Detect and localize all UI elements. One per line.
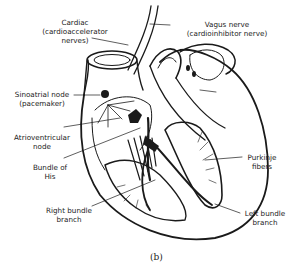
label-vagus-nerve: Vagus nerve (cardioinhibitor nerve) [172,20,282,38]
label-line: Atrioventricular [12,133,72,142]
heart-conduction-diagram: Cardiac (cardioaccelerator nerves) Vagus… [0,0,300,273]
label-line: Bundle of [28,163,72,172]
label-sinoatrial-node: Sinoatrial node (pacemaker) [8,90,76,108]
label-line: Sinoatrial node [8,90,76,99]
label-line: node [12,142,72,151]
label-line: Left bundle [240,209,290,218]
label-line: (pacemaker) [8,99,76,108]
label-line: branch [44,215,94,224]
label-line: fibers [240,162,284,171]
figure-caption: (b) [150,252,163,262]
label-atrioventricular-node: Atrioventricular node [12,133,72,151]
label-right-bundle-branch: Right bundle branch [44,206,94,224]
label-line: Right bundle [44,206,94,215]
label-left-bundle-branch: Left bundle branch [240,209,290,227]
label-line: nerves) [30,36,120,45]
label-line: His [28,172,72,181]
label-line: (cardioaccelerator [30,27,120,36]
label-bundle-of-his: Bundle of His [28,163,72,181]
label-purkinje-fibers: Purkinje fibers [240,153,284,171]
label-line: Cardiac [30,18,120,27]
sa-node [101,90,109,98]
label-cardiac-nerves: Cardiac (cardioaccelerator nerves) [30,18,120,45]
label-line: (cardioinhibitor nerve) [172,29,282,38]
cardiac-nerve [128,6,151,70]
aorta [150,49,181,78]
label-line: Purkinje [240,153,284,162]
label-line: Vagus nerve [172,20,282,29]
label-line: branch [240,218,290,227]
